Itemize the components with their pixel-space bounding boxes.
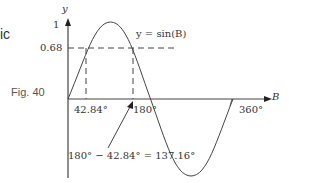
annotation-arrow: [108, 105, 131, 148]
x-tick-360: 360°: [239, 104, 263, 115]
y-tick-068: 0.68: [40, 42, 62, 53]
x-tick-180: 180°: [133, 104, 157, 115]
y-tick-1: 1: [53, 19, 59, 30]
y-axis-label: y: [62, 3, 68, 14]
y-axis-arrow-icon: [65, 18, 71, 26]
x-tick-4284: 42.84°: [74, 104, 108, 115]
x-axis-label: B: [272, 91, 279, 102]
annotation-text: 180° − 42.84° = 137.16°: [68, 150, 195, 161]
x-axis-arrow-icon: [264, 96, 272, 102]
curve-label: y = sin(B): [136, 28, 186, 39]
